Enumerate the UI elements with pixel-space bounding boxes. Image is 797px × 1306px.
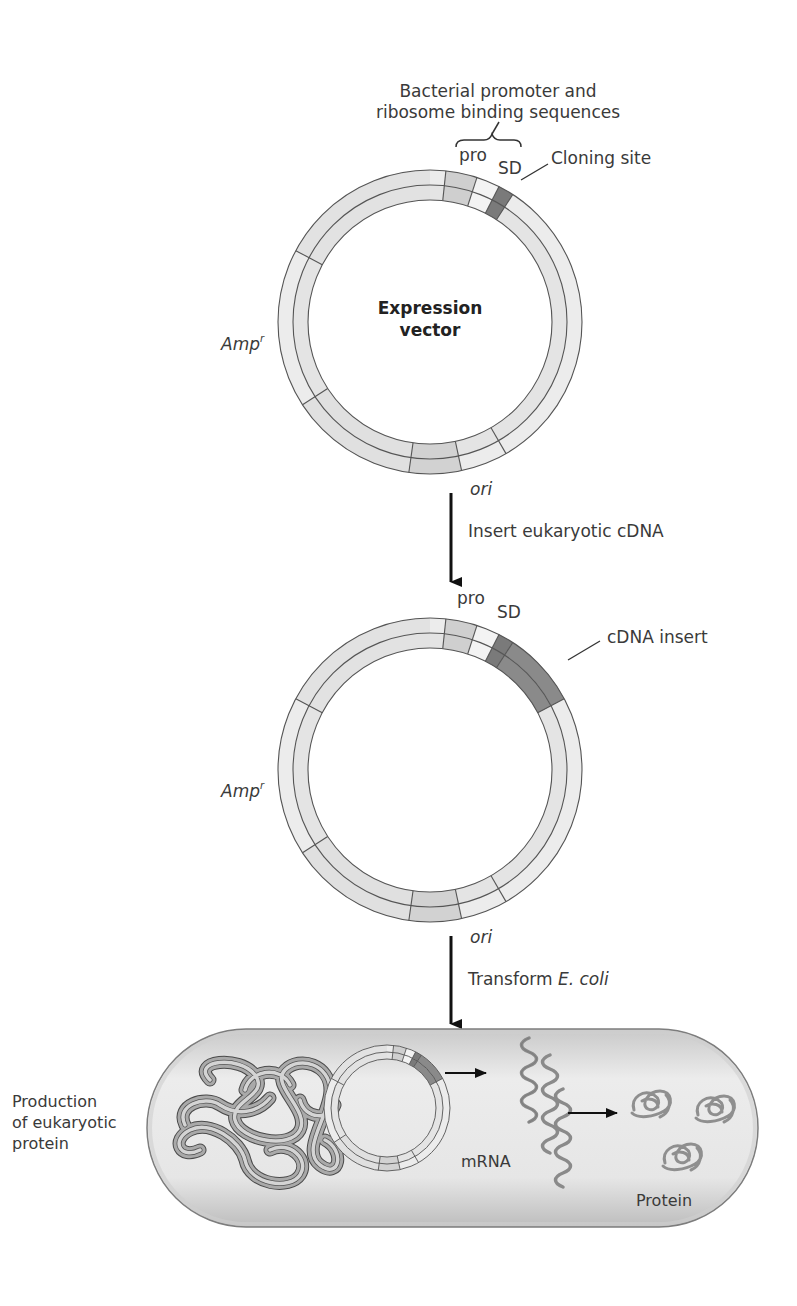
sd-label: SD <box>498 158 522 178</box>
production-label: Production of eukaryotic protein <box>12 1092 117 1153</box>
cdna-insert-label: cDNA insert <box>607 627 708 647</box>
header-label: Bacterial promoter and ribosome binding … <box>376 81 620 122</box>
sd-label-2: SD <box>497 602 521 622</box>
amp-resistance-label: Ampr <box>220 333 265 354</box>
svg-text:of eukaryotic: of eukaryotic <box>12 1113 117 1132</box>
step-insert-label: Insert eukaryotic cDNA <box>468 521 664 541</box>
cdna-insert-leader <box>568 641 600 660</box>
svg-text:protein: protein <box>12 1134 69 1153</box>
pro-label-2: pro <box>457 588 485 608</box>
header-line-2: ribosome binding sequences <box>376 102 620 122</box>
expression-vector-diagram: Bacterial promoter and ribosome binding … <box>0 0 797 1306</box>
cloning-site-label: Cloning site <box>551 148 651 168</box>
amp-resistance-label-2: Ampr <box>220 780 265 801</box>
step-transform-label: Transform E. coli <box>467 969 609 989</box>
vector-name-line-2: vector <box>400 320 461 340</box>
vector-name-line-1: Expression <box>378 298 483 318</box>
svg-text:Production: Production <box>12 1092 97 1111</box>
header-line-1: Bacterial promoter and <box>399 81 596 101</box>
mrna-label: mRNA <box>461 1152 511 1171</box>
pro-label: pro <box>459 145 487 165</box>
protein-label: Protein <box>636 1191 692 1210</box>
brace-leader-line <box>492 122 499 134</box>
recombinant-plasmid <box>278 618 582 922</box>
ori-label-2: ori <box>470 927 492 947</box>
ori-label: ori <box>470 479 492 499</box>
cloning-site-leader <box>521 164 548 180</box>
